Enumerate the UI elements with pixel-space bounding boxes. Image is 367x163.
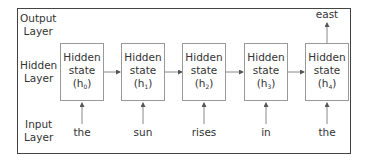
output-word: east	[305, 8, 349, 20]
hidden-state-label: Hidden	[247, 51, 284, 64]
hidden-state-var: (h1)	[134, 77, 153, 93]
hidden-state-box-1: Hidden state (h1)	[121, 43, 165, 101]
hidden-state-label: Hidden	[308, 51, 345, 64]
hidden-state-box-3: Hidden state (h3)	[244, 43, 288, 101]
input-word-1: sun	[121, 126, 165, 138]
hidden-state-label: state	[314, 64, 341, 77]
hidden-state-label: state	[69, 64, 96, 77]
hidden-state-label: Hidden	[124, 51, 161, 64]
hidden-state-label: Hidden	[185, 51, 222, 64]
hidden-state-var: (h0)	[73, 77, 92, 93]
hidden-state-var: (h2)	[195, 77, 214, 93]
input-word-0: the	[60, 126, 104, 138]
input-word-3: in	[244, 126, 288, 138]
hidden-state-box-4: Hidden state (h4)	[305, 43, 349, 101]
hidden-state-box-0: Hidden state (h0)	[60, 43, 104, 101]
input-word-4: the	[305, 126, 349, 138]
hidden-state-label: state	[253, 64, 280, 77]
hidden-state-label: state	[191, 64, 218, 77]
hidden-state-var: (h3)	[257, 77, 276, 93]
hidden-state-box-2: Hidden state (h2)	[182, 43, 226, 101]
input-word-2: rises	[182, 126, 226, 138]
hidden-state-label: Hidden	[63, 51, 100, 64]
hidden-state-label: state	[130, 64, 157, 77]
hidden-state-var: (h4)	[318, 77, 337, 93]
